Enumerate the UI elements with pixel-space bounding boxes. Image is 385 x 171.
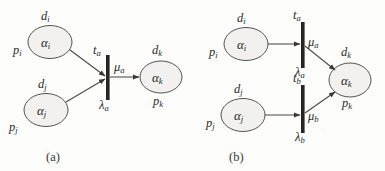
place-bottom-label-p-i-a: pi <box>13 44 22 58</box>
transition-label-t-a-b: ta <box>293 9 301 23</box>
subfigure-caption-a: (a) <box>46 150 60 165</box>
place-top-label-d-i-b: di <box>237 12 246 26</box>
place-name-alpha-i-a: αi <box>41 36 50 51</box>
transition-rate-label-lambda-b-b: λb <box>295 131 305 145</box>
place-name-alpha-k-a: αk <box>152 71 163 86</box>
place-bottom-label-p-j-b: pj <box>206 117 215 131</box>
transition-rate-label-lambda-a-a: λa <box>99 99 109 113</box>
place-bottom-label-p-i-b: pi <box>209 46 218 60</box>
place-top-label-d-k-b: dk <box>341 46 351 60</box>
arc-rate-label-mu-a-b: μa <box>308 36 319 50</box>
place-name-alpha-j-a: αj <box>37 104 46 119</box>
place-top-label-d-j-b: dj <box>234 83 243 97</box>
transition-bar-t-a-b <box>301 22 305 68</box>
place-bottom-label-p-k-b: pk <box>342 97 352 111</box>
subfigure-caption-b: (b) <box>229 150 244 165</box>
place-name-alpha-j-b: αj <box>234 109 243 124</box>
place-bottom-label-p-j-a: pj <box>9 121 18 135</box>
place-name-alpha-i-b: αi <box>237 38 246 53</box>
place-name-alpha-k-b: αk <box>341 74 352 89</box>
place-top-label-d-i-a: di <box>41 10 50 24</box>
net-graphics-layer <box>0 0 385 171</box>
arc-rate-label-mu-b-b: μb <box>308 110 319 124</box>
petri-net-figure: di αi pi dj αj pj ta μa λa dk αk pk (a) … <box>0 0 385 171</box>
transition-label-t-b-b: tb <box>293 72 301 86</box>
transition-label-t-a-a: ta <box>93 44 101 58</box>
place-bottom-label-p-k-a: pk <box>153 95 163 109</box>
transition-bar-t-a <box>106 55 110 100</box>
transition-bar-t-b-b <box>301 85 305 133</box>
place-top-label-d-j-a: dj <box>38 78 47 92</box>
place-top-label-d-k-a: dk <box>152 44 162 58</box>
arc-rate-label-mu-a-a: μa <box>114 61 125 75</box>
